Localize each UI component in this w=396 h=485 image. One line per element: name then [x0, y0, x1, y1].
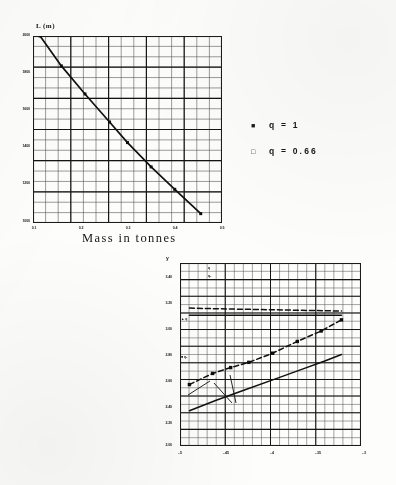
- top-chart-svg: [33, 36, 222, 223]
- bottom-chart-ytick-260: 2.60: [152, 379, 172, 383]
- bottom-chart-ytick-280: 2.80: [152, 353, 172, 357]
- top-chart-ytick-1800: 1800: [8, 70, 30, 74]
- bottom-chart-xtick-2: -.4: [262, 451, 282, 455]
- legend-item-q1-label: q = 1: [260, 120, 300, 130]
- top-chart-x-axis-title: Mass in tonnes: [82, 231, 177, 246]
- top-chart-y-axis-title: L (m): [36, 22, 55, 30]
- top-chart-ytick-2000: 2000: [8, 33, 30, 37]
- top-chart-xtick-1: 0.2: [72, 226, 90, 230]
- top-chart-plot-area: [33, 36, 222, 223]
- open-square-icon: □: [251, 148, 260, 155]
- bottom-chart-series-group: [188, 308, 343, 411]
- bottom-chart-ytick-340: 3.40: [152, 275, 172, 279]
- bottom-chart-ytick-320: 3.20: [152, 301, 172, 305]
- top-chart-ytick-1400: 1400: [8, 144, 30, 148]
- bottom-chart-ytick-240: 2.40: [152, 405, 172, 409]
- bottom-chart-xtick-3: -.35: [308, 451, 328, 455]
- top-chart-xtick-4: 0.5: [213, 226, 231, 230]
- bottom-chart-figure: y 3.40 3.20 3.00 2.80 2.60 2.40 2.20 2.0…: [150, 255, 396, 485]
- bottom-chart-xtick-4: -.3: [354, 451, 374, 455]
- bottom-chart-xtick-1: -.45: [216, 451, 236, 455]
- top-chart-ytick-1000: 1000: [8, 219, 30, 223]
- bottom-chart-ytick-300: 3.00: [152, 327, 172, 331]
- top-chart-major-gridlines: [33, 36, 222, 223]
- legend-item-q1: ■ q = 1: [251, 112, 371, 138]
- bottom-chart-xtick-0: -.5: [170, 451, 190, 455]
- filled-square-icon: ■: [251, 122, 260, 129]
- bottom-chart-plot-area: [180, 263, 361, 446]
- legend-item-q066: □ q = 0.66: [251, 138, 371, 164]
- bottom-chart-svg: [180, 263, 361, 446]
- plot-legend: ■ q = 1 □ q = 0.66: [251, 112, 371, 164]
- legend-item-q066-label: q = 0.66: [260, 146, 318, 156]
- top-chart-series-group: [39, 36, 203, 215]
- bottom-chart-ytick-220: 2.20: [152, 421, 172, 425]
- top-chart-ytick-1200: 1200: [8, 181, 30, 185]
- bottom-chart-ytick-200: 2.00: [152, 443, 172, 447]
- top-chart-xtick-0: 0.1: [25, 226, 43, 230]
- top-chart-figure: L (m) 2000 1800 1600 1400 1200 1000 0.1 …: [0, 0, 240, 252]
- top-chart-xtick-2: 0.3: [119, 226, 137, 230]
- bottom-chart-y-axis-title: y: [166, 255, 169, 261]
- top-chart-xtick-3: 0.4: [166, 226, 184, 230]
- top-chart-ytick-1600: 1600: [8, 107, 30, 111]
